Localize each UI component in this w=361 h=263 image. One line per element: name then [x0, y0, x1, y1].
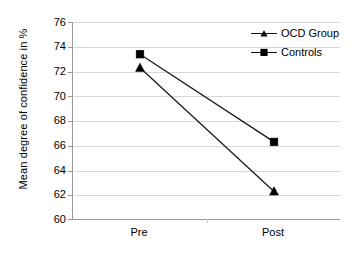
y-tick-label: 64: [40, 165, 66, 176]
y-tick-label: 70: [40, 91, 66, 102]
y-tick-label: 60: [40, 214, 66, 225]
y-tick-label: 68: [40, 115, 66, 126]
line-chart: Mean degree of confidence in % 76 74 72 …: [0, 0, 361, 263]
square-marker: [270, 138, 278, 146]
legend: OCD Group Controls: [251, 24, 339, 62]
square-marker: [136, 50, 144, 58]
square-marker: [251, 47, 277, 58]
y-tick-label: 76: [40, 17, 66, 28]
x-tick-label: Post: [238, 226, 308, 238]
y-tick-label: 72: [40, 66, 66, 77]
y-tick-label: 62: [40, 189, 66, 200]
y-tick-label: 74: [40, 41, 66, 52]
triangle-marker: [251, 28, 277, 39]
y-tick-label: 66: [40, 140, 66, 151]
legend-label: Controls: [281, 43, 322, 62]
triangle-marker: [136, 63, 145, 71]
legend-label: OCD Group: [281, 24, 339, 43]
legend-item-ocd-group: OCD Group: [251, 24, 339, 43]
y-axis-title: Mean degree of confidence in %: [17, 9, 29, 209]
series-controls: [136, 50, 278, 145]
series-ocd-group: [136, 63, 279, 195]
x-tick-label: Pre: [104, 226, 174, 238]
legend-item-controls: Controls: [251, 43, 339, 62]
plot-area: OCD Group Controls: [72, 22, 340, 220]
series-ocd-group-line: [140, 68, 274, 192]
